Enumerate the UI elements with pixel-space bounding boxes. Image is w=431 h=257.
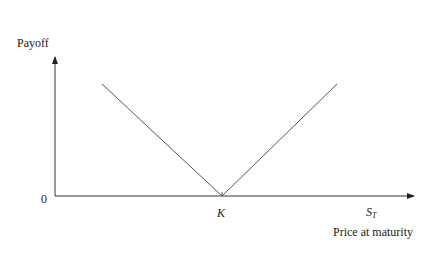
strike-label: K bbox=[217, 206, 225, 220]
origin-label: 0 bbox=[41, 192, 47, 206]
payoff-line-right bbox=[222, 84, 337, 196]
st-sub: T bbox=[372, 211, 376, 220]
st-label: ST bbox=[366, 205, 376, 223]
payoff-line-left bbox=[102, 84, 222, 196]
y-axis-label: Payoff bbox=[17, 36, 49, 50]
x-axis-label: Price at maturity bbox=[333, 225, 413, 239]
